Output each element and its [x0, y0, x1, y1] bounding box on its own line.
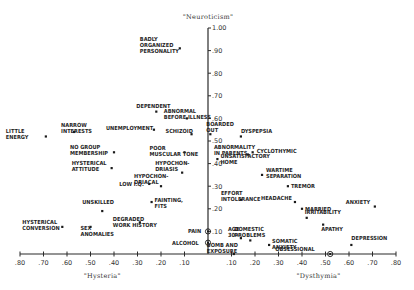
square-marker-icon: [101, 210, 103, 212]
point-label: UNSKILLED: [82, 199, 114, 205]
x-tick-label: .30: [273, 259, 283, 267]
data-point: POORMUSCULAR TONE: [150, 145, 199, 157]
point-label: UNSATISFACTORYHOME: [220, 153, 270, 165]
scatter-chart: .80.70.60.50.40.30.20.10.10.20.30.40.50.…: [0, 0, 414, 290]
point-label: SCHIZOID: [166, 128, 193, 134]
point-label: ALCOHOL: [172, 240, 200, 246]
data-point: NO GROUPMEMBERSHIP: [70, 144, 115, 156]
point-label: BADLYORGANIZEDPERSONALITY: [140, 36, 180, 54]
data-point: ALCOHOL: [172, 240, 211, 246]
point-label: PAIN: [188, 228, 201, 234]
point-label: HYSTERICALATTITUDE: [72, 160, 108, 172]
y-tick-label: .10: [212, 228, 222, 236]
point-label: ANXIETY: [346, 199, 371, 205]
point-label: DEPRESSION: [351, 235, 387, 241]
x-tick-label: .60: [344, 259, 354, 267]
x-tick-label: .70: [38, 259, 48, 267]
data-points: BADLYORGANIZEDPERSONALITYDEPENDENTABNORM…: [6, 36, 387, 256]
point-label: POORMUSCULAR TONE: [150, 145, 199, 157]
data-point: PAIN: [188, 228, 211, 234]
data-point: DYSPEPSIA: [240, 128, 272, 137]
square-marker-icon: [209, 133, 211, 135]
square-marker-icon: [301, 208, 303, 210]
data-point: UNEMPLOYMENT: [106, 125, 155, 131]
data-point: HYPOCHON-DRIACAL: [134, 173, 168, 187]
data-point: WARTIMESEPARATION: [261, 167, 301, 179]
square-marker-icon: [45, 135, 47, 137]
square-marker-icon: [261, 174, 263, 176]
point-label: DEGRADEDWORK HISTORY: [113, 216, 157, 228]
square-marker-icon: [249, 239, 251, 241]
data-point: HYPOCHON-DRIASIS: [155, 160, 189, 174]
square-marker-icon: [155, 111, 157, 113]
x-axis-title-dysthymia: "Dysthymia": [296, 272, 340, 280]
square-marker-icon: [207, 230, 209, 232]
square-marker-icon: [350, 244, 352, 246]
square-marker-icon: [113, 151, 115, 153]
point-label: LITTLEENERGY: [6, 128, 29, 140]
y-axis-title: "Neuroticism": [183, 13, 234, 21]
data-point: TREMOR: [287, 183, 315, 189]
y-tick-label: .80: [212, 70, 222, 78]
square-marker-icon: [61, 226, 63, 228]
point-label: HEADACHE: [261, 195, 293, 201]
data-point: ABNORMALBEFORE ILLNESS: [164, 108, 211, 120]
square-marker-icon: [374, 205, 376, 207]
x-axis-title-hysteria: "Hysteria": [84, 272, 121, 280]
x-tick-label: .40: [297, 259, 307, 267]
point-label: NO GROUPMEMBERSHIP: [70, 144, 108, 156]
x-tick-label: .60: [62, 259, 72, 267]
square-marker-icon: [216, 158, 218, 160]
data-point: OBSESSIONAL: [275, 246, 333, 257]
square-marker-icon: [160, 185, 162, 187]
point-label: DYSPEPSIA: [241, 128, 272, 134]
data-point: NARROWINTERESTS: [61, 122, 92, 134]
point-label: IRRITABILITY: [305, 209, 342, 215]
square-marker-icon: [181, 172, 183, 174]
data-point: EFFORTINTOLERANCE: [221, 190, 261, 202]
square-marker-icon: [329, 253, 331, 255]
data-point: IRRITABILITY: [305, 209, 342, 219]
point-label: ABNORMALBEFORE ILLNESS: [164, 108, 211, 120]
point-label: NARROWINTERESTS: [61, 122, 92, 134]
point-label: FAINTING,FITS: [155, 197, 183, 209]
x-tick-label: .10: [226, 259, 236, 267]
y-tick-label: .70: [212, 92, 222, 100]
square-marker-icon: [111, 167, 113, 169]
x-tick-label: .20: [156, 259, 166, 267]
point-label: OBSESSIONAL: [275, 246, 315, 252]
point-label: BOMB ANDEXPOSURE: [207, 242, 238, 254]
square-marker-icon: [294, 201, 296, 203]
x-tick-label: .70: [367, 259, 377, 267]
data-point: UNSATISFACTORYHOME: [216, 153, 270, 165]
data-point: UNSKILLED: [82, 199, 114, 212]
data-point: LITTLEENERGY: [6, 128, 47, 140]
x-tick-label: .80: [391, 259, 401, 267]
data-point: DEGRADEDWORK HISTORY: [113, 216, 157, 228]
point-label: BOARDEDOUT: [206, 121, 234, 133]
data-point: BADLYORGANIZEDPERSONALITY: [140, 36, 181, 54]
point-label: HYSTERICALCONVERSION: [22, 219, 59, 231]
data-point: SEXANOMALIES: [81, 225, 115, 237]
x-tick-label: .50: [320, 259, 330, 267]
point-label: TREMOR: [291, 183, 315, 189]
data-point: APATHY: [321, 224, 343, 232]
y-tick-label: .20: [212, 205, 222, 213]
point-label: HYPOCHON-DRIASIS: [155, 160, 189, 172]
x-tick-label: .40: [109, 259, 119, 267]
y-tick-label: 1.00: [212, 24, 226, 32]
point-label: HYPOCHON-DRIACAL: [134, 173, 168, 185]
point-label: WARTIMESEPARATION: [266, 167, 301, 179]
data-point: BOMB ANDEXPOSURE: [207, 242, 238, 255]
data-point: FAINTING,FITS: [151, 197, 184, 209]
data-point: DEPRESSION: [350, 235, 387, 246]
point-label: APATHY: [321, 226, 343, 232]
square-marker-icon: [268, 244, 270, 246]
x-tick-label: .80: [15, 259, 25, 267]
data-point: HEADACHE: [261, 195, 296, 203]
square-marker-icon: [306, 217, 308, 219]
data-point: BOARDEDOUT: [206, 121, 234, 135]
x-tick-label: .20: [250, 259, 260, 267]
x-tick-label: .30: [132, 259, 142, 267]
point-label: UNEMPLOYMENT: [106, 125, 154, 131]
